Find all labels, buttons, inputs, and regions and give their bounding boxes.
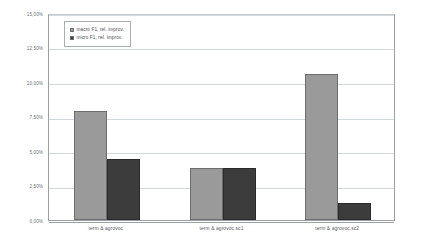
legend-swatch-icon-macro xyxy=(70,28,74,32)
y-axis-tick-label: 5,00% xyxy=(3,150,43,155)
x-axis-tick-label: term & agrovoc.sc1 xyxy=(162,226,282,232)
x-axis-tick-label: term & agrovoc xyxy=(46,226,166,232)
legend-swatch-icon-micro xyxy=(70,36,74,40)
y-axis-tick-label: 10,00% xyxy=(3,81,43,86)
bar-micro-f1 xyxy=(338,203,371,220)
y-axis-tick-label: 7,50% xyxy=(3,115,43,120)
legend-label-macro: macro F1, rel. improv. xyxy=(77,27,124,33)
legend-item-macro-f1: macro F1, rel. improv. xyxy=(70,26,124,34)
x-axis-tick-label: term & agrovoc.sc2 xyxy=(277,226,397,232)
y-axis-tick-label: 12,50% xyxy=(3,46,43,51)
legend-item-micro-f1: micro F1, rel. improv. xyxy=(70,34,124,42)
y-axis-tick-label: 15,00% xyxy=(3,12,43,17)
y-axis-tick-label: 2,50% xyxy=(3,184,43,189)
y-axis-tick-label: 0,00% xyxy=(3,219,43,224)
gridline xyxy=(49,222,394,223)
chart-legend: macro F1, rel. improv. micro F1, rel. im… xyxy=(64,21,131,47)
bar-macro-f1 xyxy=(305,74,338,220)
bar-chart: macro F1, rel. improv. micro F1, rel. im… xyxy=(0,0,423,248)
legend-label-micro: micro F1, rel. improv. xyxy=(77,35,123,41)
